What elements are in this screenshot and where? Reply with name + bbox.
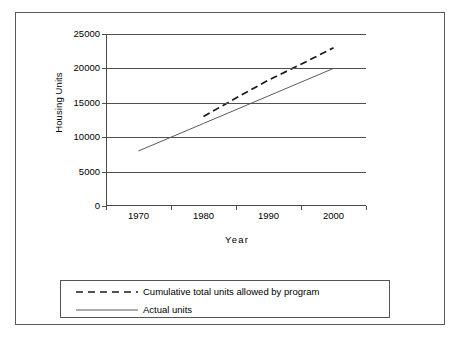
legend-label: Actual units — [143, 304, 192, 315]
gridline — [106, 172, 366, 173]
gridline — [106, 103, 366, 104]
legend-swatch-dashed-icon — [75, 286, 139, 298]
y-axis-tick-mark — [102, 68, 106, 69]
x-axis-tick-label: 1970 — [114, 210, 164, 221]
legend-item-actual-units: Actual units — [61, 300, 389, 319]
chart-figure: Housing Units 0500010000150002000025000 … — [15, 12, 445, 325]
y-axis-tick-labels: 0500010000150002000025000 — [46, 28, 100, 201]
x-axis-tick-label: 1980 — [179, 210, 229, 221]
chart-legend: Cumulative total units allowed by progra… — [60, 280, 390, 318]
y-axis-tick-label: 25000 — [46, 29, 100, 39]
y-axis-tick-label: 10000 — [46, 132, 100, 142]
y-axis-tick-mark — [102, 103, 106, 104]
gridline — [106, 68, 366, 69]
y-axis-tick-mark — [102, 137, 106, 138]
series-cumulative-total-line — [204, 48, 334, 117]
y-axis-tick-mark — [102, 34, 106, 35]
x-axis-tick-label: 1990 — [244, 210, 294, 221]
y-axis-tick-label: 5000 — [46, 167, 100, 177]
y-axis-tick-label: 0 — [46, 201, 100, 211]
plot-area — [106, 34, 366, 206]
legend-swatch-solid-icon — [75, 304, 139, 316]
x-axis-title: Year — [106, 234, 368, 245]
x-axis-tick-label: 2000 — [309, 210, 359, 221]
series-actual-units-line — [139, 68, 334, 151]
plot-block: Housing Units 0500010000150002000025000 … — [16, 13, 446, 263]
y-axis-tick-mark — [102, 172, 106, 173]
series-lines — [106, 34, 366, 206]
legend-label: Cumulative total units allowed by progra… — [143, 286, 319, 297]
y-axis-tick-label: 15000 — [46, 98, 100, 108]
gridline — [106, 137, 366, 138]
gridline — [106, 34, 366, 35]
legend-item-cumulative-total: Cumulative total units allowed by progra… — [61, 282, 389, 301]
x-axis-tick-labels: 1970198019902000 — [106, 210, 368, 224]
y-axis-tick-label: 20000 — [46, 63, 100, 73]
